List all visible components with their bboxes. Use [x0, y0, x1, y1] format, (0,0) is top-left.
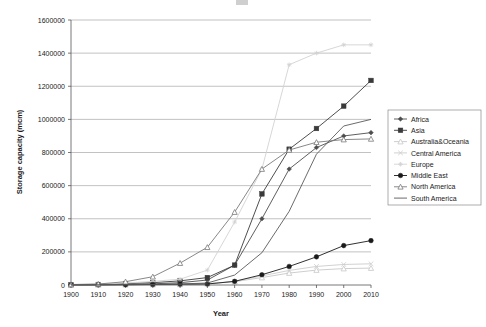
data-point-marker: [369, 78, 374, 83]
y-tick-label: 1200000: [38, 83, 65, 90]
data-point-marker: [341, 104, 346, 109]
x-tick-label: 2010: [363, 291, 379, 298]
x-tick-label: 1960: [227, 291, 243, 298]
data-point-marker: [369, 43, 374, 48]
x-tick-label: 1900: [63, 291, 79, 298]
x-tick-label: 1990: [309, 291, 325, 298]
legend-label: Asia: [411, 127, 425, 134]
cropped-title-fragment: [236, 0, 248, 5]
y-tick-label: 1000000: [38, 116, 65, 123]
legend-swatch-marker: [398, 162, 403, 167]
x-tick-label: 1920: [118, 291, 134, 298]
data-point-marker: [205, 268, 210, 273]
data-point-marker: [260, 272, 265, 277]
y-tick-label: 1400000: [38, 50, 65, 57]
data-point-marker: [260, 192, 265, 197]
y-tick-label: 200000: [42, 248, 65, 255]
legend-label: Australia&Oceania: [411, 138, 469, 145]
data-point-marker: [369, 238, 374, 243]
data-point-marker: [287, 264, 292, 269]
data-point-marker: [205, 275, 210, 280]
data-point-marker: [287, 62, 292, 67]
data-point-marker: [341, 43, 346, 48]
legend-label: North America: [411, 183, 455, 190]
storage-capacity-line-chart: 0200000400000600000800000100000012000001…: [0, 0, 486, 327]
legend-label: Africa: [411, 116, 429, 123]
data-point-marker: [341, 243, 346, 248]
chart-container: 0200000400000600000800000100000012000001…: [0, 0, 486, 327]
x-tick-label: 1980: [281, 291, 297, 298]
legend-label: Middle East: [411, 172, 448, 179]
x-tick-label: 1950: [200, 291, 216, 298]
data-point-marker: [232, 263, 237, 268]
x-axis-title: Year: [213, 309, 229, 318]
data-point-marker: [314, 126, 319, 131]
y-axis-title: Storage capacity (mcm): [15, 109, 24, 194]
legend-box: [388, 110, 481, 205]
y-tick-label: 400000: [42, 215, 65, 222]
data-point-marker: [232, 279, 237, 284]
y-tick-label: 1600000: [38, 17, 65, 24]
x-tick-label: 1910: [90, 291, 106, 298]
x-tick-label: 1930: [145, 291, 161, 298]
x-tick-label: 1940: [172, 291, 188, 298]
y-tick-label: 0: [61, 282, 65, 289]
x-tick-label: 2000: [336, 291, 352, 298]
data-point-marker: [232, 220, 237, 225]
legend-swatch-marker: [398, 128, 403, 133]
data-point-marker: [314, 51, 319, 56]
legend-label: South America: [411, 195, 457, 202]
legend-label: Central America: [411, 150, 461, 157]
data-point-marker: [178, 277, 183, 282]
y-tick-label: 600000: [42, 182, 65, 189]
data-point-marker: [314, 255, 319, 260]
y-tick-label: 800000: [42, 149, 65, 156]
legend-label: Europe: [411, 161, 434, 169]
legend-swatch-marker: [398, 173, 403, 178]
x-tick-label: 1970: [254, 291, 270, 298]
